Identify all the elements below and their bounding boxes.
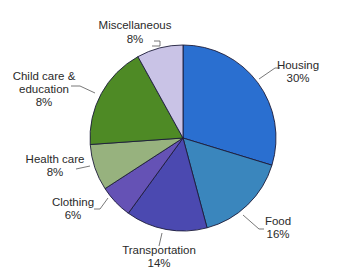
- label-clothing-pct: 6%: [65, 209, 82, 221]
- leader-food: [243, 215, 264, 229]
- leader-health: [76, 166, 90, 169]
- label-misc: Miscellaneous 8%: [99, 19, 172, 45]
- label-clothing-name: Clothing: [52, 196, 94, 208]
- label-health-pct: 8%: [47, 166, 64, 178]
- label-transportation: Transportation 14%: [122, 244, 196, 269]
- label-health-name: Health care: [26, 153, 85, 165]
- label-misc-pct: 8%: [127, 33, 144, 45]
- label-childcare-line1: Child care &: [13, 70, 76, 82]
- label-childcare-line2: education: [19, 83, 69, 95]
- label-childcare-pct: 8%: [36, 96, 53, 108]
- label-transport-name: Transportation: [122, 244, 196, 256]
- label-misc-name: Miscellaneous: [99, 19, 172, 31]
- pie-chart: Miscellaneous 8% Housing 30% Child care …: [0, 0, 337, 272]
- label-clothing: Clothing 6%: [52, 196, 94, 221]
- label-transport-pct: 14%: [147, 257, 170, 269]
- label-health: Health care 8%: [26, 153, 85, 178]
- leader-misc: [152, 41, 160, 46]
- label-food-pct: 16%: [266, 228, 289, 240]
- label-food: Food 16%: [265, 215, 291, 240]
- label-food-name: Food: [265, 215, 291, 227]
- label-housing-pct: 30%: [286, 72, 309, 84]
- label-housing-name: Housing: [277, 59, 319, 71]
- leader-childcare: [71, 86, 95, 93]
- pie-slices: [90, 45, 276, 231]
- leader-clothing: [94, 198, 108, 209]
- label-housing: Housing 30%: [277, 59, 319, 84]
- label-childcare: Child care & education 8%: [13, 70, 76, 108]
